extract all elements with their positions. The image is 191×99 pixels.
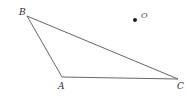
geometry-figure: B A C O bbox=[0, 0, 191, 99]
geometry-canvas bbox=[0, 0, 191, 99]
vertex-label-C: C bbox=[177, 82, 184, 91]
vertex-label-B: B bbox=[19, 8, 26, 17]
vertex-label-A: A bbox=[58, 82, 65, 91]
triangle-ABC bbox=[27, 16, 178, 79]
point-O-dot bbox=[133, 18, 137, 22]
point-label-O: O bbox=[141, 12, 148, 20]
